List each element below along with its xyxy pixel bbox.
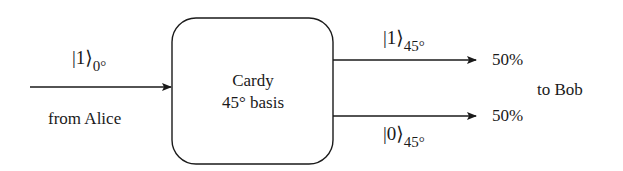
input-state-label: |1⟩0° — [72, 48, 106, 67]
box-label: Cardy 45° basis — [172, 70, 334, 114]
from-alice-label: from Alice — [48, 110, 121, 127]
output-top-ket: |1⟩ — [383, 27, 404, 48]
output-bottom-ket: |0⟩ — [383, 123, 404, 144]
box-label-line1: Cardy — [172, 70, 334, 92]
to-bob-label: to Bob — [537, 81, 583, 98]
output-state-label-bottom: |0⟩45° — [383, 124, 425, 143]
output-top-subscript: 45° — [404, 38, 425, 54]
probability-top: 50% — [492, 51, 523, 68]
output-state-label-top: |1⟩45° — [383, 28, 425, 47]
input-state-ket: |1⟩ — [72, 47, 93, 68]
input-state-subscript: 0° — [93, 58, 107, 74]
box-label-line2: 45° basis — [172, 92, 334, 114]
output-bottom-subscript: 45° — [404, 134, 425, 150]
probability-bottom: 50% — [492, 107, 523, 124]
